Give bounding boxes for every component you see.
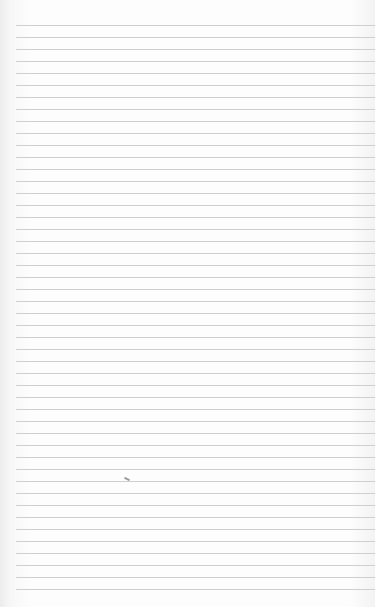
ruled-line bbox=[16, 97, 375, 98]
ruled-line bbox=[16, 193, 375, 194]
ruled-line bbox=[16, 577, 375, 578]
ruled-line bbox=[16, 529, 375, 530]
ruled-line bbox=[16, 85, 375, 86]
ruled-line bbox=[16, 217, 375, 218]
ruled-line bbox=[16, 37, 375, 38]
ruled-line bbox=[16, 241, 375, 242]
ruled-line bbox=[16, 553, 375, 554]
ruled-line bbox=[16, 121, 375, 122]
ruled-line bbox=[16, 73, 375, 74]
ruled-line bbox=[16, 337, 375, 338]
ruled-line bbox=[16, 385, 375, 386]
ruled-line bbox=[16, 205, 375, 206]
ruled-line bbox=[16, 253, 375, 254]
ruled-line bbox=[16, 265, 375, 266]
ruled-line bbox=[16, 505, 375, 506]
ruled-line bbox=[16, 589, 375, 590]
ruled-line bbox=[16, 361, 375, 362]
ruled-line bbox=[16, 169, 375, 170]
ruled-line bbox=[16, 445, 375, 446]
ruled-line bbox=[16, 277, 375, 278]
ruled-line bbox=[16, 229, 375, 230]
ruled-line bbox=[16, 373, 375, 374]
lined-paper bbox=[0, 0, 375, 607]
ruled-line bbox=[16, 349, 375, 350]
ruled-line bbox=[16, 421, 375, 422]
ruled-line bbox=[16, 61, 375, 62]
ruled-line bbox=[16, 409, 375, 410]
ruled-line bbox=[16, 397, 375, 398]
ruled-line bbox=[16, 541, 375, 542]
ruled-line bbox=[16, 433, 375, 434]
ruled-line bbox=[16, 157, 375, 158]
ruled-line bbox=[16, 181, 375, 182]
ruled-line bbox=[16, 145, 375, 146]
ruled-line bbox=[16, 469, 375, 470]
ruled-line bbox=[16, 109, 375, 110]
ruled-line bbox=[16, 457, 375, 458]
ruled-line bbox=[16, 133, 375, 134]
ruled-line bbox=[16, 313, 375, 314]
ruled-line bbox=[16, 565, 375, 566]
ruled-line bbox=[16, 25, 375, 26]
ruled-line bbox=[16, 301, 375, 302]
ruled-line bbox=[16, 325, 375, 326]
ruled-line bbox=[16, 493, 375, 494]
ruled-line bbox=[16, 517, 375, 518]
ruled-line bbox=[16, 289, 375, 290]
ruled-line bbox=[16, 481, 375, 482]
ruled-line bbox=[16, 49, 375, 50]
